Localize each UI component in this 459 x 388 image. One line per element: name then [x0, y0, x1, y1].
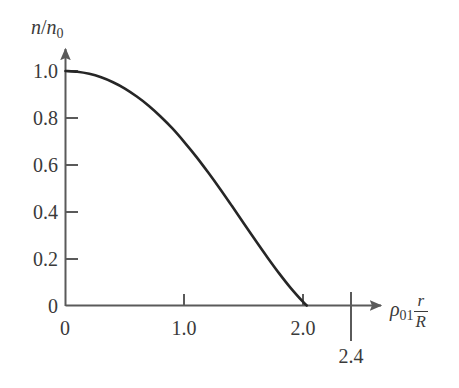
- chart-figure: 1.0 0.8 0.6 0.4 0.2 0 0 1.0 2.0 2.4 n/n0…: [0, 0, 459, 388]
- y-tick-label-0.6: 0.6: [0, 155, 58, 175]
- y-tick-label-0: 0: [0, 296, 58, 316]
- y-tick-label-0.4: 0.4: [0, 202, 58, 222]
- x-tick-label-1.0: 1.0: [154, 318, 214, 338]
- y-axis-label: n/n0: [31, 17, 64, 41]
- x-axis-label-rho: ρ: [390, 298, 400, 320]
- x-axis-ticks: [184, 294, 303, 306]
- y-tick-label-0.8: 0.8: [0, 108, 58, 128]
- x-axis-label: ρ01rR: [390, 292, 428, 330]
- x-tick-label-0: 0: [45, 318, 85, 338]
- x-axis-label-frac-denominator: R: [414, 312, 428, 331]
- y-axis-label-n: n: [31, 16, 41, 38]
- x-axis-label-frac-numerator: r: [414, 292, 428, 312]
- density-curve: [66, 71, 307, 306]
- x-axis-label-rho-sub: 01: [400, 308, 414, 323]
- y-tick-label-0.2: 0.2: [0, 249, 58, 269]
- y-axis-label-n2-sub: 0: [57, 26, 64, 41]
- x-axis-label-fraction: rR: [414, 292, 428, 330]
- zero-crossing-label: 2.4: [321, 346, 381, 366]
- x-tick-label-2.0: 2.0: [273, 318, 333, 338]
- y-tick-label-1.0: 1.0: [0, 61, 58, 81]
- y-axis-label-n2: n: [47, 16, 57, 38]
- y-axis-ticks: [66, 71, 79, 259]
